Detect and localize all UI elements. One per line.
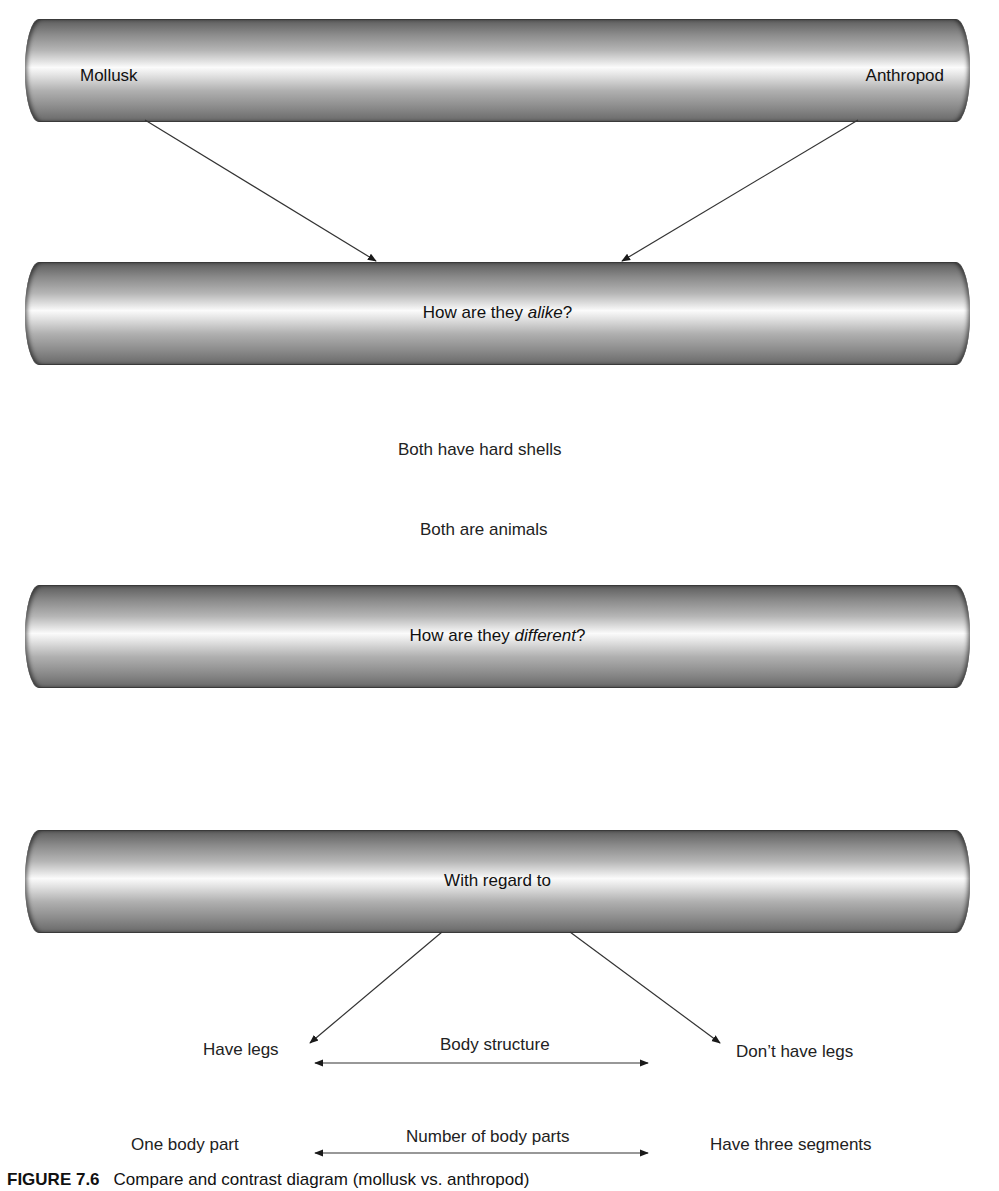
different-bar: How are they different? <box>25 585 970 688</box>
similarity-1: Both have hard shells <box>398 440 562 460</box>
different-suffix: ? <box>576 626 585 645</box>
figure-caption: FIGURE 7.6Compare and contrast diagram (… <box>7 1170 529 1190</box>
difference-1-left: Have legs <box>203 1040 279 1060</box>
alike-question: How are they alike? <box>25 303 970 323</box>
alike-prefix: How are they <box>423 303 528 322</box>
anthropod-label: Anthropod <box>866 66 944 86</box>
anthropod-arrow-line <box>622 120 858 261</box>
alike-emphasis: alike <box>528 303 563 322</box>
difference-1-right: Don’t have legs <box>736 1042 853 1062</box>
regard-label: With regard to <box>25 871 970 891</box>
mollusk-label: Mollusk <box>80 66 138 86</box>
top-bar: Mollusk Anthropod <box>25 19 970 122</box>
similarity-2: Both are animals <box>420 520 548 540</box>
different-prefix: How are they <box>410 626 515 645</box>
difference-2-left: One body part <box>131 1135 239 1155</box>
regard-bar: With regard to <box>25 830 970 933</box>
alike-suffix: ? <box>563 303 572 322</box>
mollusk-arrow-line <box>145 120 376 261</box>
have-legs-arrow-line <box>310 932 442 1043</box>
different-emphasis: different <box>514 626 575 645</box>
difference-2-right: Have three segments <box>710 1135 872 1155</box>
alike-bar: How are they alike? <box>25 262 970 365</box>
caption-text: Compare and contrast diagram (mollusk vs… <box>114 1170 530 1189</box>
difference-1-attribute: Body structure <box>440 1035 550 1055</box>
dont-have-legs-arrow-line <box>570 932 720 1043</box>
difference-2-attribute: Number of body parts <box>406 1127 569 1147</box>
different-question: How are they different? <box>25 626 970 646</box>
figure-number: FIGURE 7.6 <box>7 1170 100 1189</box>
